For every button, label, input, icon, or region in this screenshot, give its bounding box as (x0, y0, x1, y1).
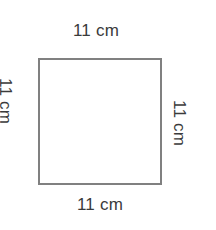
square-outline (38, 58, 162, 185)
side-label-bottom: 11 cm (0, 196, 200, 213)
side-label-right: 11 cm (171, 100, 188, 146)
geometry-figure: 11 cm 11 cm 11 cm 11 cm (0, 0, 216, 230)
side-label-top: 11 cm (0, 22, 192, 39)
side-label-left: 11 cm (0, 78, 14, 124)
